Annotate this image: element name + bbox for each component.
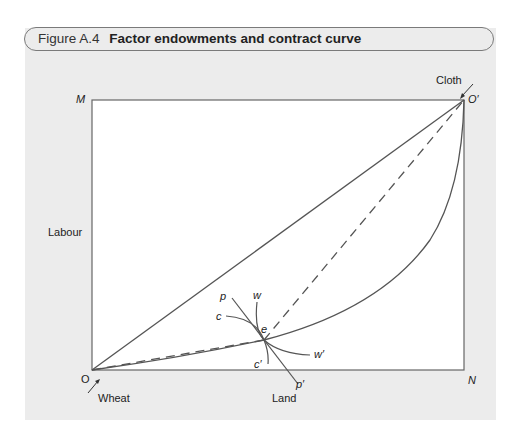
label-p-prime: p′	[296, 378, 304, 390]
label-w: w	[253, 289, 261, 301]
edgeworth-box-diagram	[0, 0, 531, 439]
label-p: p	[220, 290, 226, 302]
label-w-prime: w′	[314, 348, 324, 360]
corner-label-o-prime: O′	[468, 93, 479, 105]
corner-label-o: O	[81, 373, 90, 385]
wheat-label: Wheat	[98, 392, 130, 404]
cloth-label: Cloth	[436, 74, 462, 86]
land-axis-label: Land	[272, 392, 296, 404]
corner-label-n: N	[468, 374, 476, 386]
label-c: c	[216, 310, 222, 322]
labour-axis-label: Labour	[48, 226, 82, 238]
corner-label-m: M	[76, 93, 85, 105]
label-e: e	[261, 323, 267, 335]
label-c-prime: c′	[254, 358, 262, 370]
